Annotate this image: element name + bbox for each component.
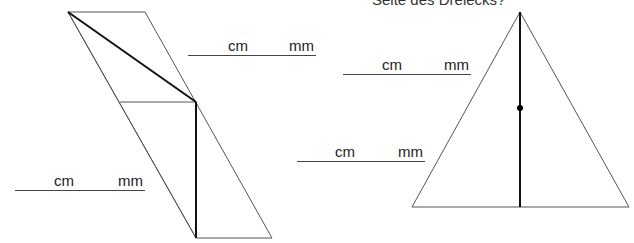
unit-mm-label: mm (289, 37, 314, 54)
unit-mm-label: mm (444, 56, 469, 73)
unit-mm-label: mm (118, 172, 143, 189)
answer-line-diagonal[interactable]: cm mm (188, 37, 316, 56)
triangle-figure (412, 12, 629, 207)
unit-mm-label: mm (398, 143, 423, 160)
answer-line-height[interactable]: cm mm (15, 172, 145, 191)
parallelogram-diagonal-line (68, 12, 196, 102)
answer-line-lower-median[interactable]: cm mm (297, 143, 425, 162)
answer-line-upper-median[interactable]: cm mm (343, 56, 471, 75)
geometry-figures (0, 0, 634, 243)
unit-cm-label: cm (335, 143, 355, 160)
triangle-midpoint-dot (517, 105, 523, 111)
unit-cm-label: cm (228, 37, 248, 54)
unit-cm-label: cm (382, 56, 402, 73)
unit-cm-label: cm (54, 172, 74, 189)
